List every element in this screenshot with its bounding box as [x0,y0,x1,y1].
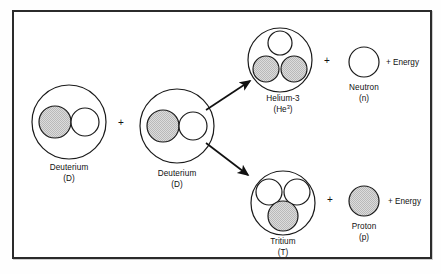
product-proton[interactable]: Proton (p) [349,186,379,242]
tritium-proton [268,201,298,231]
tritium-symbol: (T) [278,248,289,257]
fusion-reaction-diagram: Deuterium (D) + Deuterium (D) Helium-3 (… [0,0,441,274]
lower-plus-sign: + [327,194,333,205]
deuterium-2-proton [147,110,179,142]
proton-label: Proton [352,222,377,231]
reactant-plus-sign: + [118,117,124,128]
neutron-symbol: (n) [359,94,369,103]
helium-3-proton-2 [281,56,307,82]
proton-symbol: (p) [359,233,369,242]
upper-plus-sign: + [324,55,330,66]
tritium-neutron-1 [256,179,282,205]
arrow-to-tritium [206,143,248,175]
helium-3-neutron [268,31,292,55]
arrow-to-helium3 [206,81,250,110]
deuterium-1-symbol: (D) [63,174,75,183]
proton-particle [349,186,379,216]
helium-3-symbol-base: (He [273,105,287,114]
deuterium-1-neutron [71,108,99,136]
deuterium-2-symbol: (D) [171,180,183,189]
tritium-neutron-2 [284,179,310,205]
reactant-deuterium-2[interactable]: Deuterium (D) [140,89,214,189]
helium-3-symbol: (He3) [273,104,292,114]
deuterium-1-label: Deuterium [50,163,89,172]
deuterium-2-neutron [179,112,207,140]
deuterium-1-proton [39,106,71,138]
diagram-stage: Deuterium (D) + Deuterium (D) Helium-3 (… [0,0,441,274]
product-tritium[interactable]: Tritium (T) [251,171,315,257]
deuterium-2-label: Deuterium [158,169,197,178]
upper-energy-label: + Energy [386,58,420,67]
neutron-label: Neutron [349,83,379,92]
product-neutron[interactable]: Neutron (n) [349,47,379,103]
neutron-particle [349,47,379,77]
helium-3-label: Helium-3 [266,94,300,103]
helium-3-symbol-close: ) [290,105,293,114]
product-helium-3[interactable]: Helium-3 (He3) [248,28,312,114]
helium-3-proton-1 [253,56,279,82]
lower-energy-label: + Energy [388,197,422,206]
reactant-deuterium-1[interactable]: Deuterium (D) [32,85,106,183]
tritium-label: Tritium [270,237,295,246]
